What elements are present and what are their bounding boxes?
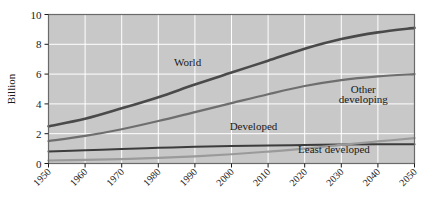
x-tick-label: 2040 — [360, 166, 382, 188]
series-annotation: World — [174, 56, 202, 68]
population-projection-line-chart: 0246810 19501960197019801990200020102020… — [0, 0, 442, 210]
y-tick-label: 6 — [36, 68, 42, 80]
x-tick-label: 2030 — [324, 166, 346, 188]
x-tick-label: 1970 — [104, 166, 126, 188]
x-tick-label: 2010 — [251, 166, 273, 188]
y-tick-label: 8 — [36, 38, 42, 50]
x-tick-label: 1980 — [141, 166, 163, 188]
x-tick-label: 1990 — [177, 166, 199, 188]
series-annotation: Least developed — [298, 143, 370, 155]
y-tick-label: 4 — [36, 98, 42, 110]
x-axis-ticks: 1950196019701980199020002010202020302040… — [31, 164, 419, 189]
y-axis-title: Billion — [5, 73, 17, 104]
x-tick-label: 2000 — [214, 166, 236, 188]
chart-figure: 0246810 19501960197019801990200020102020… — [0, 0, 442, 210]
x-tick-label: 1960 — [68, 166, 90, 188]
y-axis-ticks: 0246810 — [31, 9, 49, 170]
x-tick-label: 2050 — [397, 166, 419, 188]
series-annotation: developing — [339, 93, 388, 105]
y-axis-label: Billion — [5, 73, 17, 104]
x-tick-label: 2020 — [287, 166, 309, 188]
y-tick-label: 10 — [31, 9, 43, 21]
x-tick-label: 1950 — [31, 166, 53, 188]
y-tick-label: 2 — [36, 128, 42, 140]
y-tick-label: 0 — [36, 158, 42, 170]
series-annotation: Developed — [230, 120, 278, 132]
